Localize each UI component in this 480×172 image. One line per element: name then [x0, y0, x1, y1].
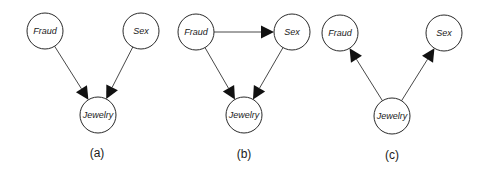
node-label: Sex	[436, 28, 452, 38]
edge-line	[55, 46, 82, 89]
node-fraud: Fraud	[27, 13, 63, 49]
arrowhead-icon	[261, 26, 274, 39]
node-label: Jewelry	[82, 110, 114, 120]
edge-sex-to-jewelry	[106, 47, 133, 99]
edge-line	[356, 59, 382, 100]
diagram-caption: (a)	[90, 146, 105, 160]
node-sex: Sex	[426, 15, 462, 51]
arrowhead-icon	[422, 48, 434, 62]
node-label: Jewelry	[228, 110, 260, 120]
arrowhead-icon	[253, 85, 265, 100]
node-label: Sex	[284, 27, 300, 37]
arrowhead-icon	[223, 85, 235, 100]
arrowhead-icon	[350, 48, 362, 62]
node-fraud: Fraud	[178, 14, 214, 50]
edge-line	[205, 48, 228, 89]
diagram-caption: (b)	[237, 147, 252, 161]
node-label: Fraud	[33, 26, 58, 36]
edge-jewelry-to-sex	[402, 48, 435, 100]
edge-line	[112, 47, 133, 87]
node-label: Fraud	[184, 27, 209, 37]
node-label: Fraud	[328, 28, 353, 38]
node-jewelry: Jewelry	[80, 97, 116, 133]
edge-line	[260, 48, 283, 89]
arrowhead-icon	[76, 85, 88, 99]
edge-jewelry-to-fraud	[350, 48, 383, 100]
diagram-caption: (c)	[385, 148, 399, 162]
edge-fraud-to-jewelry	[205, 48, 235, 100]
diagram-c: FraudSexJewelry(c)	[322, 15, 462, 162]
node-sex: Sex	[274, 14, 310, 50]
node-fraud: Fraud	[322, 15, 358, 51]
node-label: Jewelry	[376, 111, 408, 121]
node-sex: Sex	[123, 13, 159, 49]
edge-fraud-to-jewelry	[55, 46, 89, 100]
node-jewelry: Jewelry	[226, 97, 262, 133]
edge-line	[402, 59, 428, 100]
diagram-b: FraudSexJewelry(b)	[178, 14, 310, 161]
node-jewelry: Jewelry	[374, 98, 410, 134]
edge-sex-to-jewelry	[253, 48, 283, 100]
diagram-a: FraudSexJewelry(a)	[27, 13, 159, 160]
edge-fraud-to-sex	[214, 26, 274, 39]
bayesian-network-figure: FraudSexJewelry(a)FraudSexJewelry(b)Frau…	[0, 0, 480, 172]
node-label: Sex	[133, 26, 149, 36]
